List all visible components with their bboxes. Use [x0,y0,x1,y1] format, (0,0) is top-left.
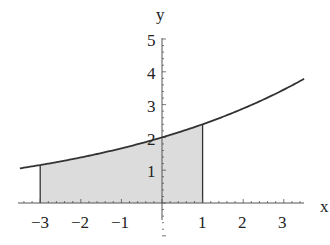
x-tick-label: 3 [278,213,287,232]
chart: y x −3 −2 −1 1 2 3 1 2 3 4 5 [0,0,330,245]
x-tick-label: −3 [31,213,49,232]
x-axis-label: x [320,197,329,216]
plot-area [18,38,304,236]
x-tick-label: 1 [198,213,207,232]
y-tick-label: 4 [147,64,156,83]
y-tick-label: 5 [147,31,156,50]
y-tick-label: 2 [147,130,156,149]
x-tick-label: 2 [238,213,247,232]
shaded-area [40,124,202,203]
y-tick-label: 1 [147,162,156,181]
x-tick-label: −1 [111,213,129,232]
y-axis-label: y [156,5,165,24]
x-tick-label: −2 [71,213,89,232]
y-tick-label: 3 [147,97,156,116]
